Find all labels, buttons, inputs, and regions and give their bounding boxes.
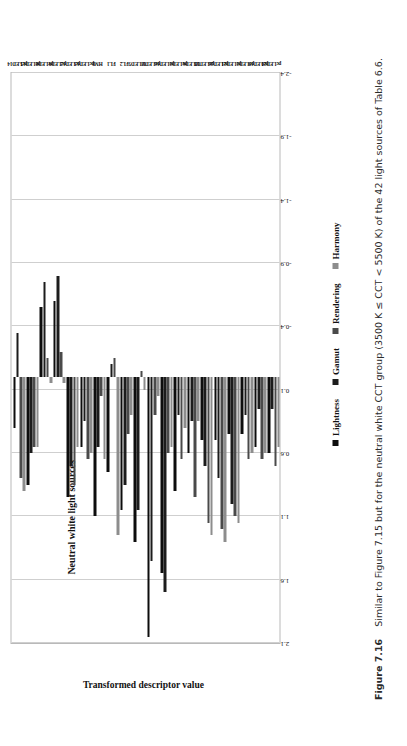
legend-label: Rendering xyxy=(330,283,340,324)
legend-label: Gamut xyxy=(330,348,340,375)
legend-label: Harmony xyxy=(330,222,340,259)
bar-gamut xyxy=(83,377,86,421)
bar-lightness xyxy=(53,301,56,377)
value-tick-label: -0.4 xyxy=(280,323,291,331)
bar-gamut xyxy=(43,282,46,377)
legend-swatch-icon xyxy=(332,263,338,269)
category-label: pcLED16 xyxy=(154,61,174,67)
gridline xyxy=(11,199,279,200)
bar-lightness xyxy=(227,377,230,434)
bar-lightness xyxy=(39,307,42,377)
bar-gamut xyxy=(257,377,260,409)
legend-swatch-icon xyxy=(332,379,338,385)
bar-gamut xyxy=(217,377,220,478)
bar-rendering xyxy=(274,377,277,466)
gridline xyxy=(11,135,279,136)
value-tick-label: 1.1 xyxy=(280,513,289,521)
bar-gamut xyxy=(29,377,32,453)
bar-gamut xyxy=(110,364,113,377)
legend-swatch-icon xyxy=(332,328,338,334)
category-label: FL2 xyxy=(120,61,129,67)
bar-lightness xyxy=(160,377,163,573)
value-tick-label: 2.1 xyxy=(280,640,289,648)
bar-harmony xyxy=(237,377,240,523)
bar-gamut xyxy=(230,377,233,504)
value-tick-label: 0.1 xyxy=(280,387,289,395)
value-tick-label: 1.6 xyxy=(280,577,289,585)
category-label: pcLED21 xyxy=(221,61,241,67)
bar-lightness xyxy=(106,377,109,472)
category-label: pcLED19 xyxy=(248,61,268,67)
bar-rendering xyxy=(207,377,210,523)
bar-lightness xyxy=(13,377,16,428)
bar-gamut xyxy=(203,377,206,466)
gridline xyxy=(11,262,279,263)
category-label: pcLED9 xyxy=(48,61,65,67)
category-label: pcLED3 xyxy=(169,61,186,67)
bar-rendering xyxy=(153,377,156,415)
bar-harmony xyxy=(103,377,106,459)
caption-text: Similar to Figure 7.15 but for the neutr… xyxy=(372,58,383,627)
caption-number: Figure 7.16 xyxy=(372,639,383,700)
legend-item-harmony: Harmony xyxy=(330,222,340,269)
bar-harmony xyxy=(129,377,132,415)
bar-lightness xyxy=(240,377,243,434)
bar-lightness xyxy=(120,377,123,510)
bar-lightness xyxy=(26,377,29,485)
bar-lightness xyxy=(187,377,190,453)
value-tick-label: -1.4 xyxy=(280,197,291,205)
bar-lightness xyxy=(93,377,96,516)
bar-gamut xyxy=(177,377,180,415)
gridline xyxy=(11,325,279,326)
bar-rendering xyxy=(113,358,116,377)
bar-rendering xyxy=(220,377,223,529)
bar-harmony xyxy=(277,377,280,447)
category-label: pcLED8 xyxy=(35,61,52,67)
bar-gamut xyxy=(69,377,72,466)
category-label: pcLED3 xyxy=(236,61,253,67)
bar-gamut xyxy=(150,377,153,561)
bar-lightness xyxy=(200,377,203,440)
bar-rendering xyxy=(86,377,89,459)
bar-rendering xyxy=(73,377,76,485)
bar-lightness xyxy=(267,377,270,453)
bar-gamut xyxy=(136,377,139,510)
bar-rendering xyxy=(180,377,183,459)
bar-lightness xyxy=(173,377,176,491)
bar-gamut xyxy=(163,377,166,592)
bar-harmony xyxy=(183,377,186,428)
bar-lightness xyxy=(147,377,150,637)
bar-gamut xyxy=(56,276,59,377)
bar-rendering xyxy=(247,377,250,459)
bar-rendering xyxy=(193,377,196,497)
value-tick-label: 0.6 xyxy=(280,450,289,458)
bar-rendering xyxy=(166,377,169,453)
value-tick-label: -2.4 xyxy=(280,70,291,78)
category-label: pcLED20 xyxy=(261,61,281,67)
plot-area: Neutral white light sources xyxy=(10,72,280,644)
category-label: pcLED12 xyxy=(60,61,80,67)
bar-lightness xyxy=(214,377,217,440)
bar-harmony xyxy=(89,377,92,453)
legend-item-gamut: Gamut xyxy=(330,348,340,385)
bar-rendering xyxy=(260,377,263,459)
bar-rendering xyxy=(32,377,35,447)
bar-gamut xyxy=(123,377,126,485)
legend-label: Lightness xyxy=(330,399,340,436)
bar-harmony xyxy=(143,377,146,390)
bar-lightness xyxy=(133,377,136,542)
bar-harmony xyxy=(116,377,119,535)
bar-gamut xyxy=(96,377,99,447)
bar-gamut xyxy=(244,377,247,415)
chart-title: Neutral white light sources xyxy=(11,73,279,643)
bar-rendering xyxy=(126,377,129,434)
bar-gamut xyxy=(190,377,193,421)
category-label: pcLED26 xyxy=(208,61,228,67)
bar-harmony xyxy=(49,377,52,383)
value-tick-label: -1.9 xyxy=(280,133,291,141)
rotated-figure-container: Transformed descriptor value Neutral whi… xyxy=(0,0,407,746)
legend-swatch-icon xyxy=(332,440,338,446)
value-axis-ticks: 2.11.61.10.60.1-0.4-0.9-1.4-1.9-2.4 xyxy=(280,72,308,644)
bar-harmony xyxy=(170,377,173,447)
category-label: pcLED15 xyxy=(20,61,40,67)
